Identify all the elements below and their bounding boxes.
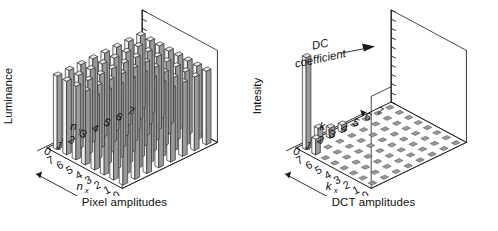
x-axis-tick-label: 1 <box>350 183 361 196</box>
y-axis-tick-label: 5 <box>351 116 362 129</box>
x-axis-tick-label: 5 <box>313 163 324 176</box>
caption-dct-amplitudes: DCT amplitudes <box>249 196 498 208</box>
vertical-axis-label: Luminance <box>2 68 14 124</box>
svg-text:k: k <box>320 120 327 132</box>
x-axis-tick-label: 3 <box>83 173 94 186</box>
x-axis-tick-label: 0 <box>360 188 371 196</box>
svg-text:DC: DC <box>311 36 330 51</box>
x-axis-tick-label: 5 <box>64 163 75 176</box>
svg-text:x: x <box>84 186 90 195</box>
svg-text:x: x <box>333 186 339 195</box>
svg-text:n: n <box>76 180 82 192</box>
x-axis-arrow <box>36 171 42 178</box>
svg-text:n: n <box>70 120 76 132</box>
x-axis-arrow <box>285 171 291 178</box>
plot-dct-amplitudes: Intesity0123456776543210kykxDCcoefficien… <box>249 0 498 196</box>
svg-text:k: k <box>326 180 333 192</box>
x-axis-tick-label: 1 <box>101 183 112 196</box>
dc-coefficient-annotation: DCcoefficient <box>291 33 348 69</box>
caption-pixel-amplitudes: Pixel amplitudes <box>0 196 249 208</box>
x-axis-tick-label: 3 <box>332 173 343 186</box>
svg-text:coefficient: coefficient <box>294 47 348 70</box>
axis-text-group: Intesity0123456776543210kykxDCcoefficien… <box>251 33 386 196</box>
plot-pixel-amplitudes: Luminance0123456776543210nynx <box>0 0 249 196</box>
dc-coefficient-arrow <box>342 44 375 54</box>
figure-dct-illustration: Luminance0123456776543210nynx Pixel ampl… <box>0 0 498 231</box>
x-axis-tick-label: 0 <box>111 188 122 196</box>
vertical-axis-label: Intesity <box>251 78 263 115</box>
